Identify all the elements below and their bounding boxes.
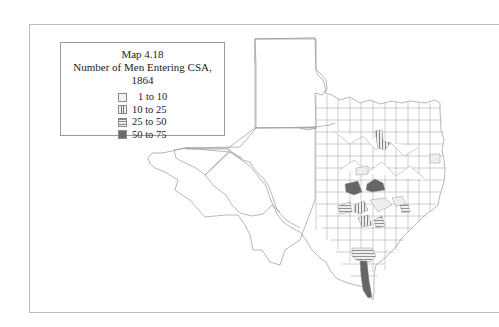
swatch-horizontal-hatch-icon [118, 118, 127, 127]
map-subtitle: Number of Men Entering CSA, 1864 [61, 61, 224, 87]
legend-label: 50 to 75 [132, 129, 166, 142]
legend-item: 50 to 75 [118, 129, 224, 142]
legend-item: 25 to 50 [118, 116, 224, 129]
swatch-light-icon [118, 93, 127, 102]
map-title: Map 4.18 [61, 48, 224, 61]
legend-item: 1 to 10 [118, 91, 224, 104]
legend-list: 1 to 10 10 to 25 25 to 50 50 to 75 [118, 91, 224, 141]
swatch-dark-icon [118, 130, 127, 139]
shaded-counties [338, 130, 440, 298]
swatch-vertical-hatch-icon [118, 105, 127, 114]
legend-item: 10 to 25 [118, 104, 224, 117]
legend-label: 10 to 25 [132, 104, 166, 117]
legend-label: 1 to 10 [132, 91, 167, 104]
map-legend: Map 4.18 Number of Men Entering CSA, 186… [60, 42, 225, 136]
legend-label: 25 to 50 [132, 116, 166, 129]
